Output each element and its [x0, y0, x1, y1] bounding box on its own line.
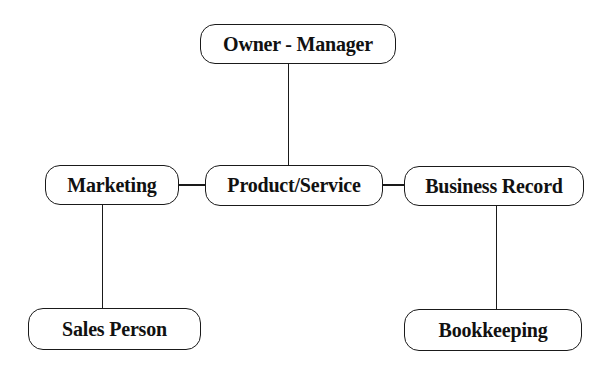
- node-marketing-label: Marketing: [67, 174, 156, 197]
- connector-marketing-to-sales-person: [102, 204, 104, 309]
- node-sales-person: Sales Person: [28, 308, 201, 350]
- connector-marketing-to-product: [178, 184, 206, 186]
- node-bookkeeping-label: Bookkeeping: [439, 319, 548, 342]
- node-business-record-label: Business Record: [425, 175, 563, 198]
- node-marketing: Marketing: [45, 165, 179, 205]
- connector-owner-to-product: [288, 63, 290, 166]
- node-bookkeeping: Bookkeeping: [404, 309, 582, 351]
- node-product-service-label: Product/Service: [227, 174, 360, 197]
- connector-product-to-business-record: [382, 184, 405, 186]
- node-owner-manager-label: Owner - Manager: [223, 33, 373, 56]
- org-chart-diagram: Owner - Manager Marketing Product/Servic…: [0, 0, 610, 371]
- node-sales-person-label: Sales Person: [62, 318, 167, 341]
- node-business-record: Business Record: [404, 166, 584, 206]
- connector-business-record-to-bookkeeping: [496, 205, 498, 310]
- node-product-service: Product/Service: [205, 165, 383, 206]
- node-owner-manager: Owner - Manager: [200, 24, 396, 64]
